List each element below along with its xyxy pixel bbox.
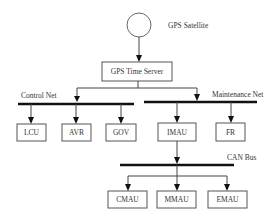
emau-label: EMAU [216, 195, 239, 204]
arrow-down-icon [74, 96, 80, 102]
arrow-down-icon [28, 117, 34, 124]
can-bus-label: CAN Bus [227, 153, 256, 162]
arrow-down-icon [136, 55, 142, 62]
imau-label: IMAU [167, 128, 188, 137]
gps-satellite-node [127, 13, 151, 37]
arrow-down-icon [224, 184, 230, 191]
maintenance-net-label: Maintenance Net [212, 90, 264, 99]
arrow-down-icon [174, 157, 180, 164]
cmau-label: CMAU [116, 195, 139, 204]
avr-label: AVR [69, 128, 84, 137]
mmau-label: MMAU [164, 195, 189, 204]
arrow-down-icon [228, 116, 234, 123]
control-net-label: Control Net [21, 91, 58, 100]
arrow-down-icon [194, 94, 200, 101]
arrow-down-icon [125, 184, 131, 191]
arrow-down-icon [174, 184, 180, 191]
gps-satellite-label: GPS Satellite [168, 21, 209, 30]
arrow-down-icon [118, 117, 124, 124]
network-diagram: GPS Satellite GPS Time Server Control Ne… [0, 0, 275, 224]
gov-label: GOV [113, 128, 130, 137]
arrow-down-icon [174, 116, 180, 123]
fr-label: FR [226, 128, 235, 137]
lcu-label: LCU [24, 128, 40, 137]
gps-time-server-label: GPS Time Server [111, 67, 164, 76]
arrow-down-icon [73, 117, 79, 124]
